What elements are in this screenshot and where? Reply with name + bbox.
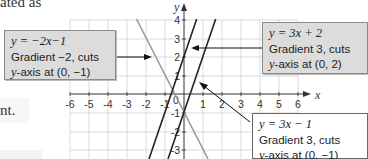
- svg-text:4: 4: [257, 98, 263, 110]
- svg-text:-1: -1: [171, 107, 180, 119]
- callout-3-intercept: -axis at (0, −1): [265, 149, 339, 159]
- svg-text:2: 2: [174, 51, 180, 63]
- svg-text:-3: -3: [122, 98, 131, 110]
- callout-line-neg2x-minus1: y = −2x−1 Gradient −2, cuts y-axis at (0…: [4, 30, 116, 80]
- callout-3-equation: y = 3x − 1: [259, 117, 312, 131]
- svg-text:-4: -4: [103, 98, 112, 110]
- line-y-3x-plus2: [149, 19, 197, 159]
- svg-text:4: 4: [174, 14, 180, 26]
- svg-text:3: 3: [174, 33, 180, 45]
- callout-2-equation: y = 3x + 2: [269, 26, 322, 40]
- callout-2-intercept: -axis at (0, 2): [275, 58, 342, 70]
- callout-3-gradient: Gradient 3, cuts: [259, 133, 361, 149]
- callout-line-3x-plus2: y = 3x + 2 Gradient 3, cuts y-axis at (0…: [262, 22, 368, 74]
- pointer-arrow-2-head-icon: [191, 45, 199, 51]
- svg-text:5: 5: [276, 98, 282, 110]
- x-axis-label: x: [314, 88, 321, 102]
- svg-text:-2: -2: [141, 98, 150, 110]
- svg-text:-5: -5: [84, 98, 93, 110]
- callout-1-gradient: Gradient −2, cuts: [11, 50, 109, 66]
- y-axis-label: y: [173, 0, 180, 14]
- svg-text:3: 3: [238, 98, 244, 110]
- y-tick-labels: 4 3 2 1 -1 -2 -3: [171, 14, 181, 156]
- callout-1-intercept: -axis at (0, −1): [17, 66, 91, 78]
- svg-text:-6: -6: [65, 98, 74, 110]
- pointer-arrow-1-head-icon: [144, 54, 152, 60]
- x-axis-arrow-icon: [303, 91, 311, 97]
- pointer-arrow-3-head-icon: [199, 82, 208, 90]
- y-axis-arrow-icon: [181, 3, 187, 11]
- callout-2-gradient: Gradient 3, cuts: [269, 42, 361, 58]
- callout-1-equation: y = −2x−1: [11, 34, 66, 48]
- x-tick-labels: -6 -5 -4 -3 -2 -1 1 2 3 4 5 6: [65, 98, 301, 110]
- svg-text:6: 6: [295, 98, 301, 110]
- callout-line-3x-minus1: y = 3x − 1 Gradient 3, cuts y-axis at (0…: [252, 113, 368, 159]
- svg-text:1: 1: [200, 98, 206, 110]
